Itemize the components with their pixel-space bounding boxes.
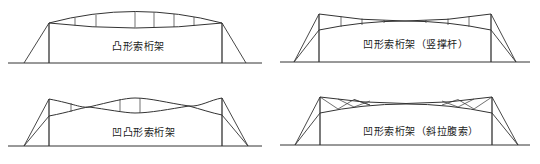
- upper-cable: [319, 14, 491, 21]
- guy-cable: [24, 116, 49, 146]
- guy-cable: [491, 30, 516, 62]
- guy-cable: [492, 113, 518, 145]
- guy-cable: [492, 97, 518, 145]
- lower-cable: [320, 104, 492, 113]
- guy-cable: [24, 99, 49, 146]
- lower-cable: [319, 21, 491, 30]
- guy-cable: [294, 30, 319, 62]
- guy-cable: [294, 14, 319, 62]
- guy-cable: [295, 97, 320, 145]
- label-concave-convex-cable-truss: 凹凸形索桁架: [112, 124, 175, 139]
- guy-cable: [222, 98, 248, 146]
- guy-cable: [222, 115, 248, 146]
- guy-cable: [295, 113, 320, 145]
- upper-cable: [49, 98, 222, 107]
- guy-cable: [491, 14, 516, 62]
- guy-cable: [222, 23, 246, 63]
- guy-cable: [24, 23, 49, 63]
- label-convex-cable-truss: 凸形索桁架: [112, 38, 165, 53]
- label-concave-cable-truss-vertical-struts: 凹形索桁架（竖撑杆）: [363, 36, 468, 51]
- label-concave-cable-truss-diagonal-web: 凹形索桁架（斜拉腹索）: [363, 123, 479, 138]
- lower-cable: [49, 106, 222, 116]
- cable-truss-diagrams: [0, 0, 540, 164]
